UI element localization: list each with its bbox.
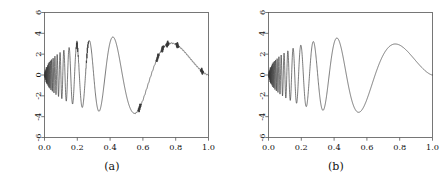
panel-b: -6-4-20246 0.00.20.40.60.81.0 (b) — [224, 0, 448, 185]
plot-b-data-group — [269, 38, 433, 112]
plot-a-data-group — [45, 37, 209, 114]
plot-b-frame-group — [269, 13, 433, 138]
y-tick-label: 6 — [257, 10, 267, 15]
plot-b-curve — [269, 38, 433, 112]
x-tick-label: 0.2 — [295, 142, 308, 152]
x-tick-label: 0.4 — [104, 142, 117, 152]
plot-a-xaxis: 0.00.20.40.60.81.0 — [38, 138, 215, 152]
y-tick-label: -4 — [33, 113, 43, 121]
plot-b-svg: -6-4-20246 0.00.20.40.60.81.0 — [224, 0, 448, 160]
x-tick-label: 0.8 — [393, 142, 406, 152]
x-tick-label: 0.4 — [328, 142, 341, 152]
y-tick-label: 4 — [257, 31, 267, 36]
x-tick-label: 0.2 — [71, 142, 84, 152]
y-tick-label: 2 — [257, 52, 267, 57]
y-tick-label: -2 — [257, 92, 267, 100]
y-tick-label: 0 — [257, 72, 267, 77]
y-tick-label: 0 — [33, 72, 43, 77]
y-tick-label: 2 — [33, 52, 43, 57]
plot-a-svg: -6-4-20246 0.00.20.40.60.81.0 — [0, 0, 224, 160]
y-tick-label: 4 — [33, 31, 43, 36]
x-tick-label: 1.0 — [426, 142, 439, 152]
plot-b-xaxis: 0.00.20.40.60.81.0 — [262, 138, 439, 152]
x-tick-label: 0.0 — [262, 142, 275, 152]
plot-a-yaxis: -6-4-20246 — [33, 10, 45, 142]
y-tick-label: -2 — [33, 92, 43, 100]
x-tick-label: 0.0 — [38, 142, 51, 152]
y-tick-label: -4 — [257, 113, 267, 121]
panel-b-caption: (b) — [224, 160, 448, 173]
plot-b-yaxis: -6-4-20246 — [257, 10, 269, 142]
plot-a-frame — [45, 13, 209, 138]
plot-b-frame — [269, 13, 433, 138]
y-tick-label: -6 — [257, 134, 267, 142]
plot-a-curve — [45, 37, 209, 114]
plot-a-frame-group — [45, 13, 209, 138]
x-tick-label: 0.6 — [360, 142, 373, 152]
panel-a: -6-4-20246 0.00.20.40.60.81.0 (a) — [0, 0, 224, 185]
panel-a-caption: (a) — [0, 160, 224, 173]
x-tick-label: 1.0 — [202, 142, 215, 152]
y-tick-label: -6 — [33, 134, 43, 142]
x-tick-label: 0.8 — [169, 142, 182, 152]
y-tick-label: 6 — [33, 10, 43, 15]
figure-container: -6-4-20246 0.00.20.40.60.81.0 (a) -6-4-2… — [0, 0, 448, 185]
x-tick-label: 0.6 — [136, 142, 149, 152]
